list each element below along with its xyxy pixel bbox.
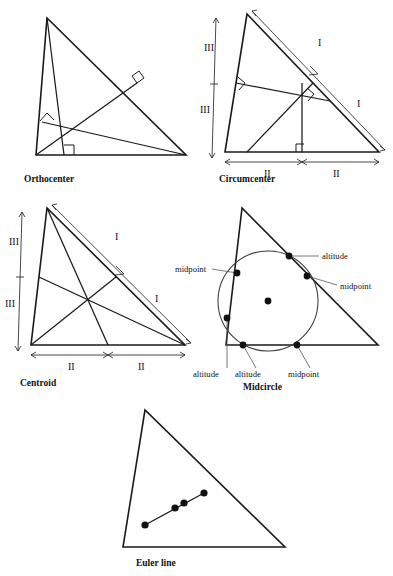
point-altitude-bottom	[240, 342, 247, 349]
leader-midpoint-bottom	[297, 345, 310, 368]
figure-centroid: I I II II III III Centroid	[5, 204, 191, 388]
caption-centroid: Centroid	[20, 378, 57, 388]
leader-midpoint-left	[212, 269, 237, 273]
centroid-mark-II-right: II	[138, 361, 145, 372]
figure-circumcenter: I I II II III III Circumcenter	[200, 10, 385, 184]
label-midpoint-left: midpoint	[175, 264, 207, 274]
circumcenter-mark-I-upper: I	[318, 37, 321, 48]
label-altitude-top: altitude	[322, 251, 348, 261]
circumcenter-measure-I	[252, 11, 385, 150]
centroid-mark-III-lower: III	[5, 298, 15, 309]
orthocenter-right-angle-1b	[137, 71, 144, 83]
label-midpoint-right: midpoint	[340, 281, 372, 291]
triangle-centers-plate: Orthocenter I I II II III III Circu	[0, 0, 393, 576]
orthocenter-altitude-b	[36, 83, 137, 155]
circumcenter-bisector-right	[247, 83, 313, 152]
caption-orthocenter: Orthocenter	[24, 174, 75, 184]
orthocenter-right-angle-1	[132, 71, 139, 83]
orthocenter-right-angle-2	[64, 145, 74, 155]
circumcenter-mark-III-upper: III	[204, 42, 214, 53]
circumcenter-measure-III	[212, 18, 216, 158]
circumcenter-mark-II-right: II	[333, 168, 340, 179]
centroid-measure-I-arrowhead-end	[186, 339, 191, 344]
figure-orthocenter: Orthocenter	[24, 18, 186, 184]
point-altitude-left	[224, 315, 231, 322]
caption-midcircle: Midcircle	[243, 382, 282, 392]
point-midpoint-left	[234, 270, 241, 277]
centroid-mark-III-upper: III	[9, 236, 19, 247]
euler-point-3	[180, 499, 187, 506]
caption-euler-line: Euler line	[136, 558, 176, 568]
figure-midcircle: altitude midpoint midpoint altitude alti…	[175, 208, 378, 392]
centroid-mark-I-lower: I	[155, 293, 158, 304]
euler-point-2	[171, 504, 178, 511]
orthocenter-altitude-a	[47, 18, 64, 155]
caption-circumcenter: Circumcenter	[219, 174, 276, 184]
circumcenter-measure-I-arrowhead-end	[380, 146, 385, 151]
centroid-mark-I-upper: I	[115, 231, 118, 242]
euler-point-4	[200, 489, 207, 496]
label-midpoint-bottom: midpoint	[288, 369, 320, 379]
centroid-measure-III	[18, 212, 22, 351]
circumcenter-mark-III-lower: III	[200, 104, 210, 115]
figure-euler: Euler line	[123, 410, 285, 568]
centroid-mark-II-left: II	[68, 361, 75, 372]
orthocenter-right-angle-3	[40, 113, 54, 121]
midcircle-triangle	[226, 208, 378, 345]
point-midpoint-right	[304, 273, 311, 280]
label-altitude-bottom: altitude	[235, 369, 261, 379]
label-altitude-left: altitude	[193, 369, 219, 379]
euler-point-1	[141, 521, 148, 528]
centroid-median-c	[39, 277, 185, 345]
point-midpoint-bottom	[294, 342, 301, 349]
centroid-triangle	[31, 208, 185, 345]
leader-altitude-bottom	[243, 345, 256, 368]
circumcenter-measure-I-midtick	[309, 66, 318, 75]
leader-midpoint-right	[307, 276, 337, 285]
point-altitude-top	[286, 253, 293, 260]
orthocenter-triangle	[36, 18, 186, 155]
circumcenter-right-angle-right	[307, 88, 314, 101]
point-nine-point-center	[265, 298, 272, 305]
centroid-measure-I-midtick	[115, 266, 124, 275]
circumcenter-right-angle-base	[296, 144, 304, 152]
circumcenter-mark-I-lower: I	[357, 98, 360, 109]
